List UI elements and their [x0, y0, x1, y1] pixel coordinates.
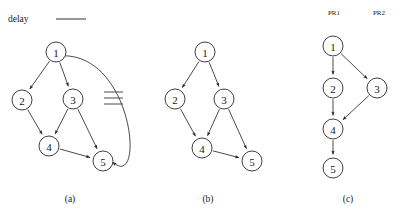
node-label: 5 [249, 156, 255, 168]
edge-1-to-3 [60, 63, 69, 87]
node-label: 4 [46, 141, 52, 153]
column-label-pr2: PR2 [373, 9, 386, 17]
edge-1-to-2 [182, 61, 199, 87]
node-label: 3 [374, 83, 380, 95]
panel-caption-c: (c) [343, 194, 354, 205]
node-label: 5 [100, 156, 106, 168]
node-label: 1 [53, 47, 59, 59]
edge-3-to-5 [78, 109, 97, 149]
node-label: 1 [202, 47, 208, 59]
graph-panel-b: 12345(b) [165, 42, 262, 205]
node-label: 1 [330, 41, 336, 53]
edge-2-to-4 [28, 110, 42, 135]
graph-node-5[interactable]: 5 [242, 151, 262, 171]
edge-layer [180, 61, 246, 157]
edge-3-to-4 [208, 109, 220, 135]
graph-node-5[interactable]: 5 [323, 158, 343, 178]
edge-4-to-5 [213, 151, 239, 158]
graph-node-4[interactable]: 4 [323, 119, 343, 139]
graph-node-3[interactable]: 3 [367, 78, 387, 98]
graph-panel-c: PR1PR212345(c) [323, 9, 387, 205]
graph-node-2[interactable]: 2 [165, 89, 185, 109]
edge-1-to-3 [209, 62, 219, 86]
node-label: 2 [19, 95, 25, 107]
panel-caption-b: (b) [202, 194, 213, 205]
column-label-pr1: PR1 [328, 9, 341, 17]
node-label: 4 [330, 124, 336, 136]
edge-3-to-5 [229, 109, 247, 148]
node-label: 2 [330, 83, 336, 95]
edge-2-to-4 [180, 109, 195, 136]
graph-node-1[interactable]: 1 [195, 42, 215, 62]
graph-node-5[interactable]: 5 [93, 151, 113, 171]
delay-hatch-marks [104, 92, 123, 104]
graph-node-1[interactable]: 1 [323, 36, 343, 56]
edge-3-to-4 [343, 96, 369, 120]
graph-panel-a: 12345(a) [12, 42, 130, 205]
legend-label: delay [8, 14, 29, 24]
legend: delay [8, 14, 86, 24]
graph-node-4[interactable]: 4 [192, 138, 212, 158]
edge-1-to-3 [341, 54, 367, 79]
node-label: 4 [199, 143, 205, 155]
graph-node-4[interactable]: 4 [39, 136, 59, 156]
node-label: 5 [330, 163, 336, 175]
edge-layer [333, 54, 369, 155]
edge-5-to-1-delay [65, 56, 130, 166]
edge-3-to-4 [55, 109, 68, 134]
graph-node-3[interactable]: 3 [63, 89, 83, 109]
graph-node-2[interactable]: 2 [12, 90, 32, 110]
node-label: 3 [70, 94, 76, 106]
graph-node-2[interactable]: 2 [323, 78, 343, 98]
edge-4-to-5 [60, 149, 90, 157]
node-label: 2 [172, 94, 178, 106]
graph-node-1[interactable]: 1 [46, 42, 66, 62]
edge-1-to-2 [30, 61, 50, 89]
graph-node-3[interactable]: 3 [214, 89, 234, 109]
panel-caption-a: (a) [65, 194, 76, 205]
node-label: 3 [221, 94, 227, 106]
graph-panels: 12345(a)12345(b)PR1PR212345(c) [12, 9, 387, 205]
figure-canvas: delay 12345(a)12345(b)PR1PR212345(c) [0, 0, 404, 216]
